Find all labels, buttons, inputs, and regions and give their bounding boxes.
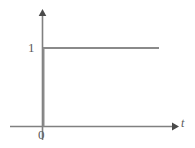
plot-canvas: [0, 0, 195, 148]
x-axis-name-label: t: [181, 117, 184, 129]
y-axis-arrow-icon: [39, 9, 47, 16]
x-axis-arrow-icon: [172, 123, 179, 131]
y-tick-label-one: 1: [28, 41, 35, 54]
origin-label-zero: 0: [38, 128, 45, 141]
unit-step-function-figure: 1 0 t: [0, 0, 195, 148]
